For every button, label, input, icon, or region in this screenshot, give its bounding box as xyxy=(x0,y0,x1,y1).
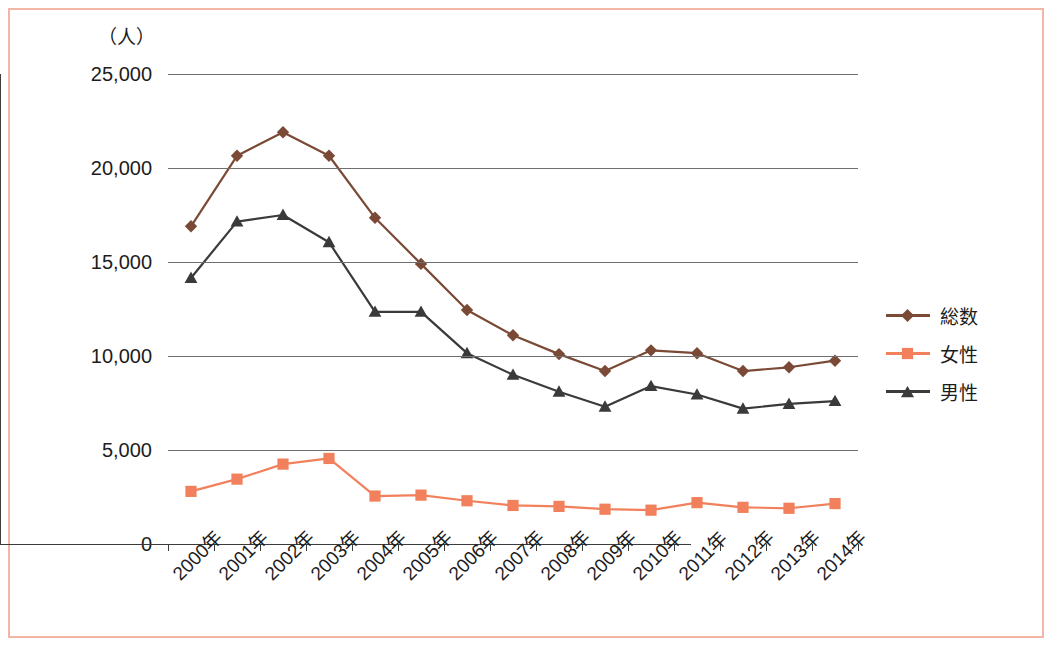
legend-item-triangle[interactable]: 男性 xyxy=(886,372,1036,410)
data-point-marker xyxy=(507,368,520,379)
diamond-marker-icon xyxy=(886,307,930,323)
data-point-marker xyxy=(185,486,196,497)
data-point-marker xyxy=(553,501,564,512)
series-triangle xyxy=(185,209,842,414)
data-point-marker xyxy=(645,380,658,391)
chart-figure: （人） 25,00020,00015,00010,0005,0000 2000年… xyxy=(0,0,1060,662)
data-point-marker xyxy=(737,365,749,377)
data-point-marker xyxy=(461,495,472,506)
gridline xyxy=(168,450,858,451)
data-point-marker xyxy=(645,344,657,356)
data-point-marker xyxy=(415,490,426,501)
y-axis-tick-label: 20,000 xyxy=(52,157,152,180)
data-point-marker xyxy=(185,220,197,232)
data-point-marker xyxy=(231,150,243,162)
x-axis-tick-labels: 2000年2001年2002年2003年2004年2005年2006年2007年… xyxy=(168,556,948,656)
series-square xyxy=(185,453,840,516)
gridline xyxy=(168,168,858,169)
data-point-marker xyxy=(783,503,794,514)
gridline xyxy=(168,356,858,357)
data-point-marker xyxy=(507,500,518,511)
data-point-marker xyxy=(369,490,380,501)
data-point-marker xyxy=(277,126,289,138)
data-point-marker xyxy=(323,236,336,247)
data-point-marker xyxy=(645,505,656,516)
data-point-marker xyxy=(829,498,840,509)
y-axis-tick-label: 25,000 xyxy=(52,63,152,86)
legend-label: 総数 xyxy=(940,302,978,329)
legend-item-diamond[interactable]: 総数 xyxy=(886,296,1036,334)
gridline xyxy=(168,262,858,263)
y-axis-tick-label: 10,000 xyxy=(52,345,152,368)
data-point-marker xyxy=(599,365,611,377)
gridline xyxy=(168,74,858,75)
legend-marker-glyph xyxy=(900,308,915,323)
chart-legend: 総数女性男性 xyxy=(886,296,1036,410)
x-axis-tickmark xyxy=(168,544,169,551)
data-point-marker xyxy=(691,347,703,359)
data-point-marker xyxy=(323,453,334,464)
data-point-marker xyxy=(599,504,610,515)
square-marker-icon xyxy=(886,345,930,361)
y-axis-line xyxy=(0,74,1,544)
y-axis-tick-label: 5,000 xyxy=(52,439,152,462)
y-axis-tick-labels: 25,00020,00015,00010,0005,0000 xyxy=(42,0,152,662)
legend-label: 女性 xyxy=(940,340,978,367)
data-point-marker xyxy=(277,459,288,470)
data-point-marker xyxy=(553,348,565,360)
data-point-marker xyxy=(783,361,795,373)
data-point-marker xyxy=(231,474,242,485)
legend-item-square[interactable]: 女性 xyxy=(886,334,1036,372)
data-point-marker xyxy=(507,329,519,341)
legend-label: 男性 xyxy=(940,378,978,405)
legend-marker-glyph xyxy=(900,346,915,361)
legend-marker-glyph xyxy=(900,384,915,399)
series-layer xyxy=(168,74,858,544)
series-diamond xyxy=(185,126,841,377)
data-point-marker xyxy=(691,497,702,508)
y-axis-tick-label: 15,000 xyxy=(52,251,152,274)
plot-area xyxy=(168,74,858,544)
data-point-marker xyxy=(737,502,748,513)
triangle-marker-icon xyxy=(886,383,930,399)
data-point-marker xyxy=(277,209,290,220)
